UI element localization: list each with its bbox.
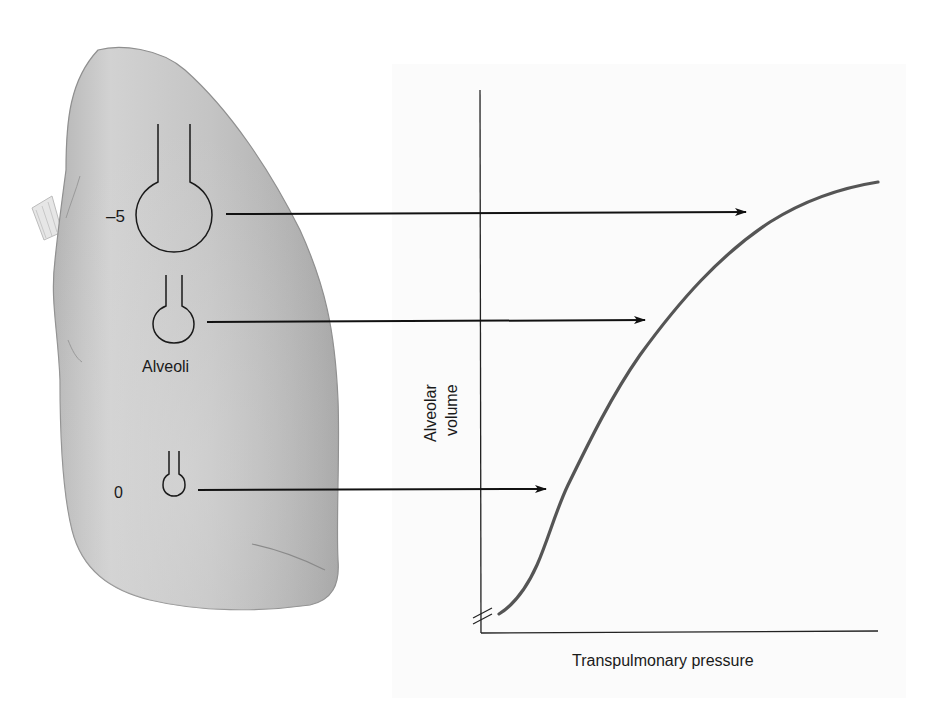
pressure-volume-curve (499, 182, 878, 614)
y-axis (480, 90, 481, 633)
alveoli-label: Alveoli (142, 358, 189, 375)
axis-break-icon (473, 608, 492, 624)
y-axis-label-line1: Alveolar (422, 384, 439, 442)
arrow-large-alveolus (226, 212, 746, 214)
y-axis-label-line2: volume (443, 384, 460, 436)
arrow-small-alveolus (198, 489, 546, 490)
pressure-label-bottom: 0 (114, 484, 123, 501)
lung-illustration (53, 47, 338, 609)
pressure-label-top: –5 (106, 207, 125, 226)
x-axis (481, 631, 878, 633)
x-axis-label: Transpulmonary pressure (572, 652, 754, 669)
figure-canvas: –5 Alveoli 0 Alveolar volume Transpulmon… (0, 0, 933, 720)
